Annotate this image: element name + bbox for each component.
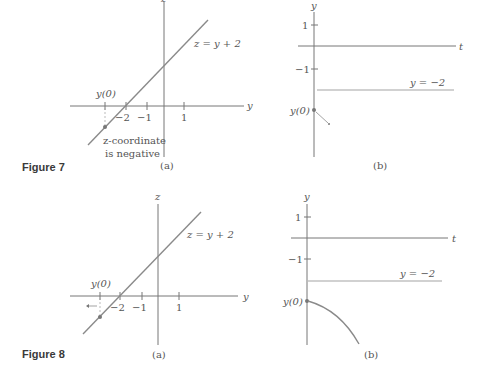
line-label: z = y + 2 <box>193 38 241 49</box>
t-axis-label: t <box>452 233 457 244</box>
vertical-axis-label: y <box>310 0 317 11</box>
solution-curve <box>308 301 359 344</box>
tick-label-y0: y(0) <box>90 278 111 289</box>
y-axis-label: y <box>242 291 249 302</box>
slope-arrow <box>316 112 328 123</box>
tick-label-1: 1 <box>181 112 187 123</box>
initial-point <box>98 315 102 319</box>
equilibrium-label: y = −2 <box>409 77 445 88</box>
figure-8: Figure 8 z y y(0) −2 −1 1 z = y + 2 (a) … <box>22 191 457 360</box>
initial-label: y(0) <box>289 105 310 116</box>
annotation-line-1: z-coordinate <box>103 135 166 146</box>
y-axis-label: y <box>246 100 253 111</box>
tick-label-1: 1 <box>302 20 308 31</box>
tick-label-1: 1 <box>176 302 182 313</box>
initial-point <box>312 108 316 112</box>
vertical-axis-label: y <box>303 191 310 202</box>
panel-label-a: (a) <box>160 160 174 171</box>
figure-7-panel-a: y y(0) −2 −1 1 z = y + 2 z-coordinate is… <box>70 2 253 171</box>
tick-label-1: 1 <box>295 212 301 223</box>
arrow-left-icon <box>86 304 89 308</box>
initial-point <box>103 125 107 129</box>
t-axis-label: t <box>459 41 464 52</box>
panel-label-a: (a) <box>152 349 166 360</box>
z-axis-label: z <box>154 191 161 202</box>
equilibrium-label: y = −2 <box>399 268 435 279</box>
annotation-line-2: is negative <box>105 148 160 159</box>
figure-7-caption: Figure 7 <box>22 161 65 173</box>
z-axis-label: z <box>160 0 167 4</box>
panel-label-b: (b) <box>373 160 387 171</box>
arrow-head-icon <box>328 123 330 125</box>
figure-8-caption: Figure 8 <box>22 348 65 360</box>
figure-7: Figure 7 y y(0) −2 −1 1 z = y + 2 z-coor… <box>22 0 464 173</box>
tick-label-minus-1: −1 <box>288 254 303 265</box>
figure-8-panel-a: z y y(0) −2 −1 1 z = y + 2 (a) <box>70 191 249 360</box>
figure-8-panel-b: y t 1 −1 y = −2 y(0) (b) <box>282 191 457 360</box>
diagram-canvas: Figure 7 y y(0) −2 −1 1 z = y + 2 z-coor… <box>0 0 484 378</box>
panel-label-b: (b) <box>364 349 378 360</box>
tick-label-minus-1: −1 <box>295 64 310 75</box>
line-label: z = y + 2 <box>186 229 234 240</box>
tick-label-y0: y(0) <box>95 88 116 99</box>
tick-label-minus-1: −1 <box>132 302 147 313</box>
initial-label: y(0) <box>282 296 303 307</box>
tick-label-minus-1: −1 <box>137 112 152 123</box>
figure-7-panel-b: y t 1 −1 y = −2 y(0) (b) <box>289 0 464 171</box>
